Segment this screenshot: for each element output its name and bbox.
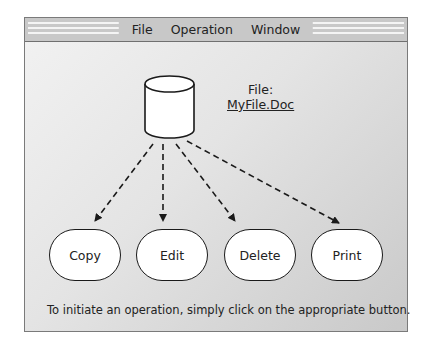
arrow-to-delete	[176, 144, 235, 221]
arrow-to-copy	[95, 144, 153, 221]
diagram-canvas	[25, 18, 409, 333]
edit-button[interactable]: Edit	[136, 229, 208, 281]
file-label: File: MyFile.Doc	[227, 82, 294, 112]
dashed-arrows	[95, 141, 339, 223]
application-window: File Operation Window File: MyFile.Doc C…	[24, 17, 408, 332]
file-name-link[interactable]: MyFile.Doc	[227, 97, 294, 112]
copy-button[interactable]: Copy	[49, 229, 121, 281]
delete-button[interactable]: Delete	[224, 229, 296, 281]
file-caption: File:	[227, 82, 294, 97]
database-cylinder-icon[interactable]	[145, 76, 194, 138]
print-button[interactable]: Print	[311, 229, 383, 281]
instruction-text: To initiate an operation, simply click o…	[47, 303, 410, 317]
arrow-to-print	[187, 141, 339, 223]
